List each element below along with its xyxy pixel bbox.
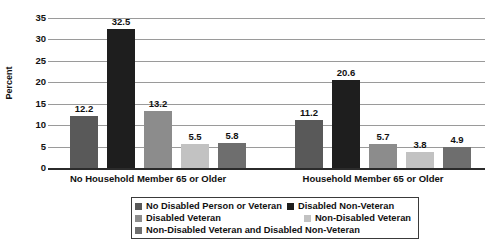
legend-swatch-icon — [135, 227, 142, 234]
y-tick-25: 25 — [2, 56, 46, 66]
bar-chart: Percent 35 30 25 20 15 10 5 0 12.232.513… — [0, 0, 499, 248]
bar — [369, 144, 397, 168]
bar — [144, 111, 172, 168]
category-label-1: No Household Member 65 or Older — [28, 173, 268, 184]
category-label-2: Household Member 65 or Older — [253, 173, 493, 184]
legend: No Disabled Person or Veteran Disabled N… — [131, 197, 419, 239]
bar — [181, 144, 209, 168]
bar — [295, 120, 323, 168]
y-tick-15: 15 — [2, 99, 46, 109]
y-tick-35: 35 — [2, 13, 46, 23]
legend-item-no-disabled-person-or-veteran[interactable]: No Disabled Person or Veteran — [135, 201, 287, 212]
legend-swatch-icon — [135, 203, 142, 210]
y-tick-0: 0 — [2, 163, 46, 173]
bar — [406, 152, 434, 168]
y-axis: Percent 35 30 25 20 15 10 5 0 — [0, 0, 46, 248]
legend-label: Disabled Non-Veteran — [298, 201, 394, 212]
bar-value-label: 20.6 — [324, 68, 368, 78]
bar-value-label: 32.5 — [99, 17, 143, 27]
bar-value-label: 12.2 — [62, 104, 106, 114]
bar-value-label: 13.2 — [136, 99, 180, 109]
x-axis-baseline — [48, 168, 485, 170]
bar — [443, 147, 471, 168]
bars-layer: 12.232.513.25.55.811.220.65.73.84.9 — [48, 18, 485, 168]
legend-swatch-icon — [135, 215, 142, 222]
legend-row-3: Non-Disabled Veteran and Disabled Non-Ve… — [135, 225, 415, 237]
y-tick-20: 20 — [2, 77, 46, 87]
bar-value-label: 5.8 — [210, 131, 254, 141]
legend-row-2: Disabled Veteran Non-Disabled Veteran — [135, 212, 415, 224]
legend-label: Non-Disabled Veteran and Disabled Non-Ve… — [146, 225, 360, 236]
legend-item-disabled-veteran[interactable]: Disabled Veteran — [135, 213, 287, 224]
legend-label: Non-Disabled Veteran — [315, 213, 411, 224]
plot-area: 12.232.513.25.55.811.220.65.73.84.9 — [48, 18, 485, 168]
bar — [70, 116, 98, 168]
legend-item-non-disabled-veteran[interactable]: Non-Disabled Veteran — [287, 213, 415, 224]
legend-item-disabled-non-veteran[interactable]: Disabled Non-Veteran — [287, 201, 415, 212]
legend-swatch-icon — [287, 203, 294, 210]
y-tick-30: 30 — [2, 34, 46, 44]
legend-item-non-disabled-veteran-and-disabled-non-veteran[interactable]: Non-Disabled Veteran and Disabled Non-Ve… — [135, 225, 415, 236]
bar — [218, 143, 246, 168]
bar — [332, 80, 360, 168]
bar — [107, 29, 135, 168]
legend-swatch-icon — [304, 215, 311, 222]
legend-row-1: No Disabled Person or Veteran Disabled N… — [135, 200, 415, 212]
legend-label: Disabled Veteran — [146, 213, 221, 224]
y-tick-10: 10 — [2, 120, 46, 130]
y-tick-5: 5 — [2, 142, 46, 152]
legend-label: No Disabled Person or Veteran — [146, 201, 282, 212]
bar-value-label: 4.9 — [435, 135, 479, 145]
bar-value-label: 11.2 — [287, 108, 331, 118]
